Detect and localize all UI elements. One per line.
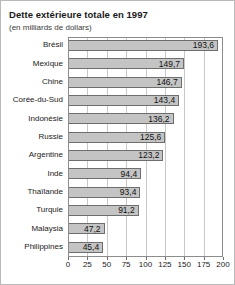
category-label-row: Argentine xyxy=(1,147,66,164)
bar-row: 45,4 xyxy=(68,239,223,256)
bar-row: 125,6 xyxy=(68,129,223,146)
category-label-row: Indonésie xyxy=(1,110,66,127)
tick-label: 125 xyxy=(158,261,171,269)
bar-value-label: 94,4 xyxy=(121,170,141,179)
category-label: Indonésie xyxy=(28,115,66,123)
bar[interactable]: 91,2 xyxy=(68,205,139,216)
bar[interactable]: 125,6 xyxy=(68,132,165,143)
bar-value-label: 45,4 xyxy=(83,243,103,252)
tick-label: 200 xyxy=(216,261,229,269)
bar-value-label: 123,2 xyxy=(138,151,162,160)
bar-row: 146,7 xyxy=(68,74,223,91)
bar-row: 123,2 xyxy=(68,147,223,164)
tick-label: 25 xyxy=(83,261,92,269)
category-label-row: Malaysia xyxy=(1,220,66,237)
category-axis-labels: BrésilMexiqueChineCorée-du-SudIndonésieR… xyxy=(1,37,66,257)
bar[interactable]: 45,4 xyxy=(68,242,103,253)
category-label-row: Thaïlande xyxy=(1,184,66,201)
plot-area: 193,6149,7146,7143,4136,2125,6123,294,49… xyxy=(68,37,223,257)
category-label-row: Philippines xyxy=(1,239,66,256)
category-label: Argentine xyxy=(29,151,66,159)
bar[interactable]: 47,2 xyxy=(68,223,105,234)
bar-value-label: 146,7 xyxy=(156,78,180,87)
bar[interactable]: 146,7 xyxy=(68,77,182,88)
category-label-row: Inde xyxy=(1,165,66,182)
bar-row: 93,4 xyxy=(68,184,223,201)
category-label: Turquie xyxy=(36,206,66,214)
bar-value-label: 91,2 xyxy=(118,206,138,215)
bar-row: 143,4 xyxy=(68,92,223,109)
tick-label: 50 xyxy=(102,261,111,269)
chart-subtitle: (en milliards de dollars) xyxy=(9,23,92,32)
category-label-row: Corée-du-Sud xyxy=(1,92,66,109)
chart-title: Dette extérieure totale en 1997 xyxy=(9,9,148,20)
tick-label: 75 xyxy=(122,261,131,269)
category-label-row: Turquie xyxy=(1,202,66,219)
bar-value-label: 125,6 xyxy=(140,133,164,142)
bar[interactable]: 94,4 xyxy=(68,168,141,179)
bar-rows: 193,6149,7146,7143,4136,2125,6123,294,49… xyxy=(68,37,223,257)
value-axis: 0255075100125150175200 xyxy=(68,257,223,281)
chart-figure: Dette extérieure totale en 1997 (en mill… xyxy=(0,0,235,285)
bar-row: 136,2 xyxy=(68,110,223,127)
bar-value-label: 193,6 xyxy=(193,41,217,50)
category-label: Brésil xyxy=(43,41,66,49)
category-label: Corée-du-Sud xyxy=(13,96,66,104)
category-label: Malaysia xyxy=(31,225,66,233)
category-label: Chine xyxy=(42,78,66,86)
tick-label: 150 xyxy=(178,261,191,269)
bar[interactable]: 193,6 xyxy=(68,40,218,51)
bar[interactable]: 149,7 xyxy=(68,58,184,69)
bar-row: 193,6 xyxy=(68,37,223,54)
category-label-row: Russie xyxy=(1,129,66,146)
category-label-row: Mexique xyxy=(1,55,66,72)
bar[interactable]: 136,2 xyxy=(68,113,174,124)
category-label: Inde xyxy=(47,170,66,178)
bar[interactable]: 143,4 xyxy=(68,95,179,106)
category-label-row: Brésil xyxy=(1,37,66,54)
bar-row: 91,2 xyxy=(68,202,223,219)
bar[interactable]: 93,4 xyxy=(68,187,140,198)
tick-label: 175 xyxy=(197,261,210,269)
tick-label: 100 xyxy=(139,261,152,269)
tick-label: 0 xyxy=(66,261,70,269)
bar-row: 149,7 xyxy=(68,55,223,72)
bar-value-label: 93,4 xyxy=(120,188,140,197)
bar-value-label: 143,4 xyxy=(154,96,178,105)
bar-row: 94,4 xyxy=(68,165,223,182)
category-label: Thaïlande xyxy=(27,188,66,196)
category-label-row: Chine xyxy=(1,74,66,91)
category-label: Philippines xyxy=(24,243,66,251)
bar[interactable]: 123,2 xyxy=(68,150,163,161)
bar-value-label: 47,2 xyxy=(84,225,104,234)
bar-value-label: 149,7 xyxy=(159,60,183,69)
category-label: Russie xyxy=(39,133,66,141)
bar-value-label: 136,2 xyxy=(148,115,172,124)
category-label: Mexique xyxy=(33,60,66,68)
bar-row: 47,2 xyxy=(68,220,223,237)
